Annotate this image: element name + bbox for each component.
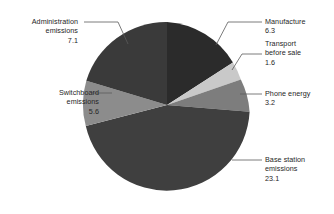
pie-label-administration-value: 7.1: [32, 36, 78, 45]
pie-slices: [83, 22, 250, 191]
pie-label-base-station-line2: emissions: [265, 164, 305, 173]
pie-label-base-station-value: 23.1: [265, 174, 305, 183]
pie-label-switchboard-emissions: Switchboard emissions 5.6: [59, 88, 99, 116]
pie-label-administration-emissions: Administration emissions 7.1: [32, 17, 78, 45]
pie-label-switchboard-line1: Switchboard: [59, 88, 99, 97]
pie-label-transport-line1: Transport: [265, 39, 296, 48]
leader-line-transport: [232, 54, 262, 70]
pie-label-administration-line2: emissions: [32, 26, 78, 35]
pie-label-base-station-emissions: Base station emissions 23.1: [265, 155, 305, 183]
pie-chart-figure: Manufacture 6.3 Transport before sale 1.…: [0, 0, 334, 214]
pie-label-manufacture-line1: Manufacture: [265, 17, 306, 26]
figure-caption: [0, 205, 334, 214]
pie-label-phone-energy-value: 3.2: [265, 98, 310, 107]
pie-label-manufacture-value: 6.3: [265, 26, 306, 35]
pie-label-phone-energy-line1: Phone energy: [265, 89, 310, 98]
pie-label-manufacture: Manufacture 6.3: [265, 17, 306, 36]
pie-label-base-station-line1: Base station: [265, 155, 305, 164]
pie-label-transport-line2: before sale: [265, 48, 301, 57]
pie-label-transport-value: 1.6: [265, 58, 301, 67]
pie-label-switchboard-value: 5.6: [59, 107, 99, 116]
leader-line-manufacture: [216, 22, 262, 45]
pie-label-administration-line1: Administration: [32, 17, 78, 26]
pie-label-transport-before-sale: Transport before sale 1.6: [265, 39, 301, 67]
pie-label-switchboard-line2: emissions: [59, 97, 99, 106]
pie-label-phone-energy: Phone energy 3.2: [265, 89, 310, 108]
